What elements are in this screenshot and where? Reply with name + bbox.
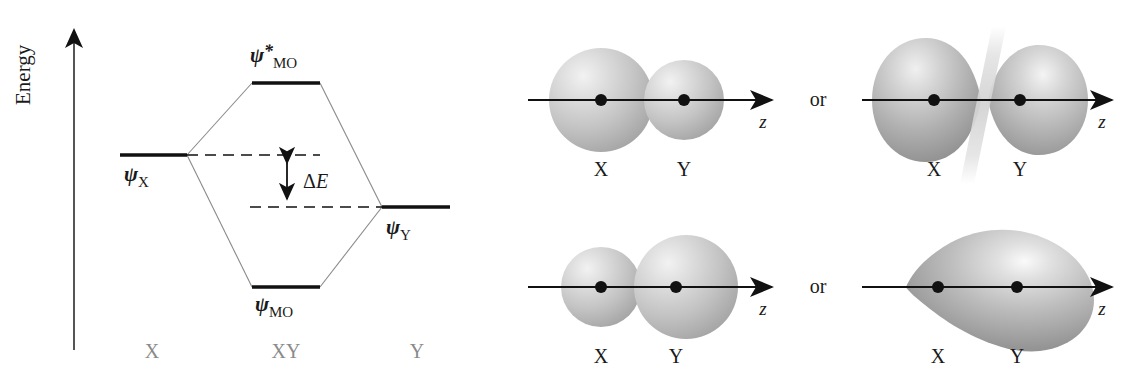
energy-level-bars xyxy=(120,83,450,287)
nucleus-y xyxy=(678,94,690,106)
nucleus-y xyxy=(1011,281,1023,293)
column-label-y: Y xyxy=(410,340,424,362)
z-axis-label: z xyxy=(758,298,767,319)
orbital-panel-top-left: z X Y xyxy=(528,48,772,180)
z-axis-label: z xyxy=(1097,298,1106,319)
energy-axis: Energy xyxy=(11,30,74,350)
nucleus-x xyxy=(595,281,607,293)
line-antibonding-to-y xyxy=(320,83,382,207)
label-reactant-x: ψX xyxy=(124,162,149,190)
label-reactant-y: ψY xyxy=(386,215,411,243)
delta-e-annotation: ΔE xyxy=(287,163,328,199)
z-axis-label: z xyxy=(1097,111,1106,132)
atom-label-x: X xyxy=(927,158,942,180)
nucleus-y xyxy=(1014,94,1026,106)
energy-axis-label: Energy xyxy=(11,44,35,105)
label-bonding-mo: ψMO xyxy=(255,292,293,320)
column-label-x: X xyxy=(145,340,160,362)
label-antibonding-mo: ψ*MO xyxy=(250,41,297,71)
nucleus-x xyxy=(595,94,607,106)
column-label-xy: XY xyxy=(272,340,301,362)
nucleus-x xyxy=(928,94,940,106)
orbital-panel-top-right: z X Y xyxy=(862,26,1112,184)
energy-symbol: E xyxy=(315,170,328,192)
atom-label-y: Y xyxy=(1010,345,1024,367)
line-x-to-bonding xyxy=(187,155,252,287)
atom-label-y: Y xyxy=(669,345,683,367)
z-axis-label: z xyxy=(758,111,767,132)
delta-e-label: ΔE xyxy=(303,170,328,192)
atom-label-x: X xyxy=(594,158,609,180)
mo-energy-diagram: Energy ΔE ψ*MO ψX ψY ψM xyxy=(11,30,450,362)
or-separator-bottom: or xyxy=(810,275,827,297)
or-separator-top: or xyxy=(810,88,827,110)
correlation-lines xyxy=(187,83,382,287)
atom-label-y: Y xyxy=(1013,158,1027,180)
line-bonding-to-y xyxy=(320,207,382,287)
orbital-panel-bottom-left: z X Y xyxy=(528,235,772,367)
atom-label-y: Y xyxy=(677,158,691,180)
nucleus-x xyxy=(932,281,944,293)
orbital-panel-bottom-right: z X Y xyxy=(862,230,1112,367)
delta-symbol: Δ xyxy=(303,170,316,192)
atom-label-x: X xyxy=(594,345,609,367)
mo-diagram-figure: Energy ΔE ψ*MO ψX ψY ψM xyxy=(0,0,1140,385)
nucleus-y xyxy=(670,281,682,293)
line-x-to-antibonding xyxy=(187,83,252,155)
dashed-reference-lines xyxy=(187,155,382,207)
atom-label-x: X xyxy=(931,345,946,367)
